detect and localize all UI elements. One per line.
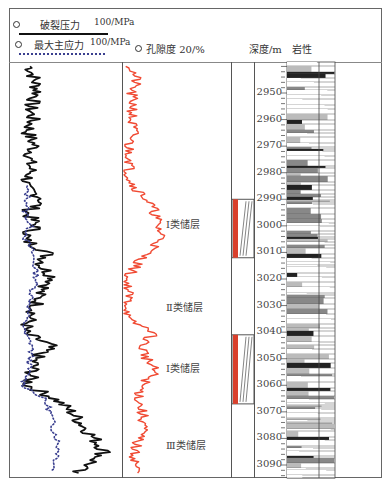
reservoir-class-label: Ⅰ类储层: [166, 216, 200, 231]
depth-tick-label: 3040: [254, 325, 282, 336]
depth-tick-label: 3020: [254, 272, 282, 283]
porosity-curve: [124, 66, 165, 473]
legend-stress-label: 最大主应力: [34, 37, 84, 52]
reservoir-class-label: Ⅰ类储层: [166, 360, 200, 375]
pressure-track-plot: [10, 62, 123, 478]
depth-tick-label: 2990: [254, 192, 282, 203]
porosity-track-plot: [123, 62, 231, 478]
legend-stress-line: [19, 53, 105, 55]
depth-tick-label: 3050: [254, 352, 282, 363]
frac-pressure-curve: [21, 66, 110, 473]
depth-tick-label: 3030: [254, 299, 282, 310]
legend-stress-marker-icon: [15, 41, 22, 48]
depth-tick-label: 2960: [254, 113, 282, 124]
depth-tick-label: 2970: [254, 139, 282, 150]
reservoir-interval: [232, 199, 254, 257]
reservoir-class-label: Ⅱ类储层: [166, 299, 203, 314]
depth-tick-label: 3070: [254, 405, 282, 416]
legend-porosity-marker-icon: [135, 45, 142, 52]
depth-tick-label: 3000: [254, 219, 282, 230]
legend-frac-marker-icon: [13, 21, 20, 28]
depth-tick-label: 3060: [254, 378, 282, 389]
lithology-column: [281, 62, 337, 478]
depth-tick-label: 3080: [254, 431, 282, 442]
legend-stress-scale: 100/MPa: [90, 37, 130, 47]
lithology-header: 岩性: [292, 41, 312, 56]
legend-frac-line: [19, 33, 108, 35]
depth-tick-label: 3090: [254, 458, 282, 469]
legend-porosity-label: 孔隙度 20/%: [146, 41, 205, 56]
reservoir-interval: [232, 335, 254, 404]
depth-tick-label: 3010: [254, 245, 282, 256]
depth-tick-label: 2980: [254, 166, 282, 177]
legend-frac-label: 破裂压力: [40, 17, 80, 32]
depth-header: 深度/m: [249, 41, 282, 56]
reservoir-class-label: Ⅲ类储层: [166, 437, 206, 452]
depth-tick-label: 2950: [254, 86, 282, 97]
reservoir-interval-track: [232, 62, 255, 478]
legend-frac-scale: 100/MPa: [94, 17, 134, 27]
